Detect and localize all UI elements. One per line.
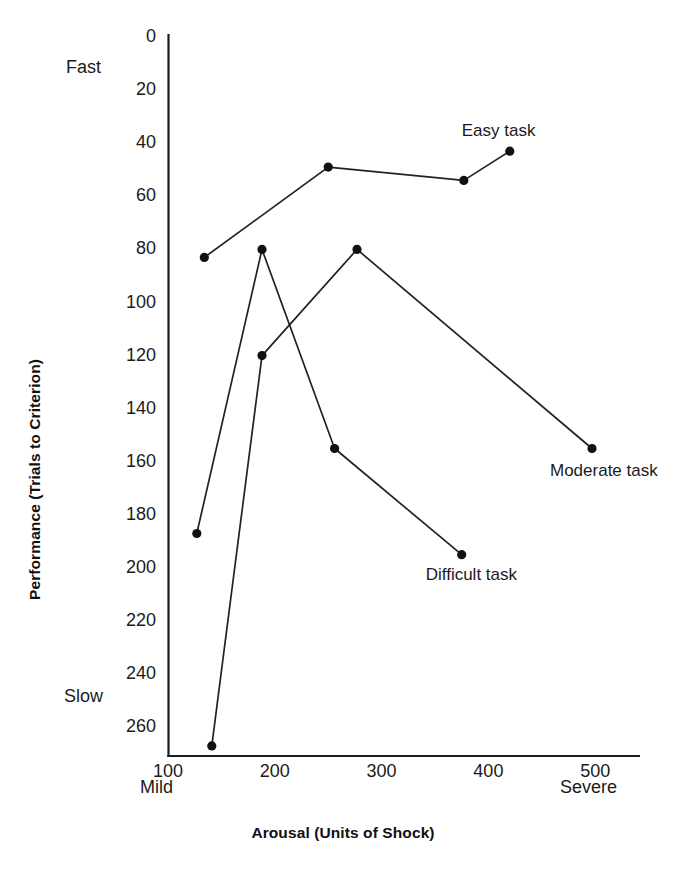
series-line — [197, 249, 462, 554]
data-series — [207, 245, 596, 751]
data-point-marker — [457, 550, 466, 559]
data-point-marker — [352, 245, 361, 254]
axis-lines — [167, 34, 640, 757]
chart-figure: Performance (Trials to Criterion) Fast S… — [0, 0, 686, 871]
data-point-marker — [324, 163, 333, 172]
data-point-marker — [207, 741, 216, 750]
data-point-marker — [192, 529, 201, 538]
data-point-marker — [587, 444, 596, 453]
data-point-marker — [257, 351, 266, 360]
data-point-marker — [459, 176, 468, 185]
series-line — [204, 151, 510, 257]
data-series — [192, 245, 466, 560]
series-line — [212, 249, 592, 746]
data-point-marker — [257, 245, 266, 254]
data-point-marker — [200, 253, 209, 262]
data-series-group — [192, 147, 596, 751]
data-point-marker — [505, 147, 514, 156]
data-point-marker — [330, 444, 339, 453]
plot-area — [0, 0, 686, 871]
data-series — [200, 147, 515, 262]
